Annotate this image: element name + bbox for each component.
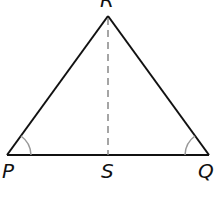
side-PR (7, 16, 108, 155)
vertex-label-Q: Q (198, 161, 214, 181)
point-label-S: S (101, 161, 114, 181)
angle-arc-P (21, 136, 31, 155)
vertex-label-P: P (2, 161, 14, 181)
vertex-label-R: R (100, 0, 114, 10)
angle-arc-Q (185, 136, 195, 155)
side-RQ (108, 16, 209, 155)
